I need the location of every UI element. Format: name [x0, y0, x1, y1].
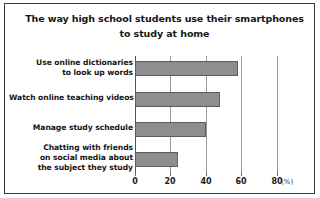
tick-mark-0	[135, 172, 136, 176]
category-label-line: to look up words	[9, 68, 133, 78]
bar-watch-online-teaching-videos	[135, 92, 220, 107]
category-label-chatting-with-friends: Chatting with friends on social media ab…	[9, 143, 133, 173]
chart-title: The way high school students use their s…	[17, 12, 312, 40]
tick-mark-20	[170, 172, 171, 176]
category-label-line: Use online dictionaries	[9, 58, 133, 68]
category-label-line: on social media about	[9, 153, 133, 163]
bar-use-online-dictionaries	[135, 61, 238, 76]
bar-chatting-with-friends	[135, 152, 178, 167]
tick-label-0: 0	[132, 177, 138, 186]
category-label-watch-online-teaching-videos: Watch online teaching videos	[9, 93, 133, 103]
chart-figure: The way high school students use their s…	[0, 0, 320, 198]
plot-area: 0 20 40 60 80 (%)	[135, 56, 277, 172]
category-label-manage-study-schedule: Manage study schedule	[9, 123, 133, 133]
tick-label-60: 60	[235, 177, 246, 186]
category-label-line: Watch online teaching videos	[9, 93, 133, 103]
tick-label-20: 20	[164, 177, 175, 186]
category-label-line: Chatting with friends	[9, 143, 133, 153]
chart-title-line-1: The way high school students use their s…	[17, 12, 312, 25]
gridline-60	[241, 56, 242, 172]
bar-manage-study-schedule	[135, 122, 206, 137]
chart-title-line-2: to study at home	[17, 27, 312, 40]
category-label-line: Manage study schedule	[9, 123, 133, 133]
tick-mark-40	[206, 172, 207, 176]
gridline-80	[277, 56, 278, 172]
category-axis-labels: Use online dictionaries to look up words…	[7, 56, 133, 172]
tick-mark-60	[241, 172, 242, 176]
tick-label-40: 40	[200, 177, 211, 186]
tick-mark-80	[277, 172, 278, 176]
category-label-use-online-dictionaries: Use online dictionaries to look up words	[9, 58, 133, 78]
chart-frame: The way high school students use their s…	[4, 3, 315, 194]
category-label-line: the subject they study	[9, 163, 133, 173]
axis-unit-label: (%)	[281, 178, 293, 186]
